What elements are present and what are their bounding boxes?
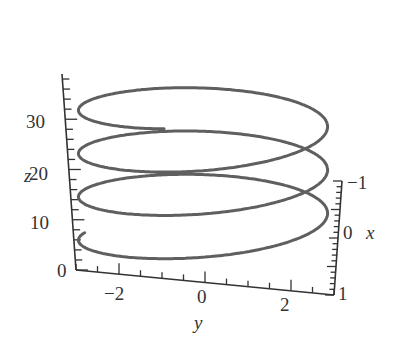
z-tick-label-20: 20 <box>29 163 48 184</box>
helix-curve <box>78 88 327 259</box>
z-tick-label-30: 30 <box>26 111 45 132</box>
x-tick-label-0: 0 <box>343 222 353 243</box>
y-tick-label-neg2: −2 <box>104 283 124 304</box>
y-tick-label-0: 0 <box>197 286 207 307</box>
z-axis-label: z <box>23 165 32 186</box>
helix-3d-plot: 30 20 10 0 z −2 0 2 y −1 0 x 1 <box>0 0 394 357</box>
axis-ticks <box>62 79 342 295</box>
y-tick-label-2: 2 <box>280 294 290 315</box>
z-axis-line <box>62 74 76 270</box>
axes <box>62 74 342 295</box>
y-axis-label: y <box>192 312 203 333</box>
x-tick-label-1: 1 <box>338 283 348 304</box>
z-tick-label-0: 0 <box>57 260 67 281</box>
x-tick-label-neg1: −1 <box>347 172 367 193</box>
x-axis-label: x <box>365 222 375 243</box>
z-tick-label-10: 10 <box>30 212 49 233</box>
